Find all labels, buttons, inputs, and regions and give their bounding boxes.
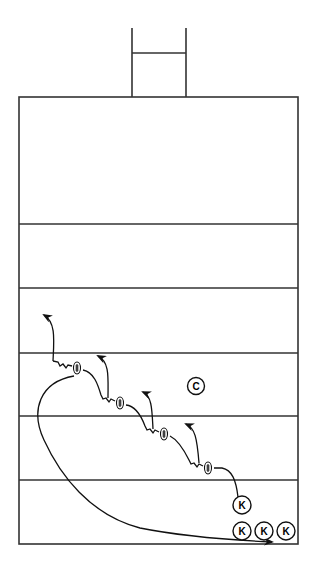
play-diagram-svg: C K K K K bbox=[0, 0, 314, 562]
player-kicker: K bbox=[255, 522, 273, 540]
svg-text:K: K bbox=[260, 526, 268, 537]
player-kicker: K bbox=[277, 522, 295, 540]
player-center: C bbox=[188, 378, 205, 395]
player-kicker: K bbox=[233, 496, 251, 514]
svg-text:K: K bbox=[282, 526, 290, 537]
football-icon bbox=[205, 462, 212, 474]
yard-lines bbox=[19, 224, 298, 480]
football-icon bbox=[74, 362, 81, 374]
play-diagram: C K K K K bbox=[0, 0, 314, 562]
svg-text:K: K bbox=[238, 526, 246, 537]
football-icon bbox=[161, 428, 168, 440]
field-boundary bbox=[19, 97, 298, 544]
svg-text:K: K bbox=[238, 500, 246, 511]
player-kicker: K bbox=[233, 522, 251, 540]
goalpost bbox=[132, 28, 186, 97]
football-icon bbox=[117, 397, 124, 409]
svg-text:C: C bbox=[192, 381, 199, 392]
players: C K K K K bbox=[188, 378, 296, 541]
